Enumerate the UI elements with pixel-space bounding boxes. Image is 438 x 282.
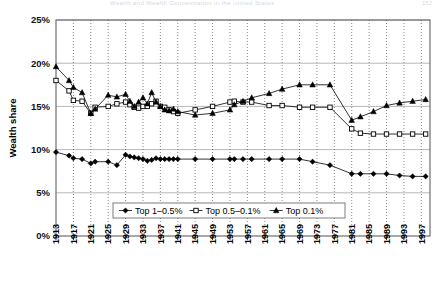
data-point: [79, 157, 84, 162]
data-point: [210, 157, 215, 162]
y-tick-label: 25%: [31, 14, 51, 25]
y-tick-label: 10%: [31, 144, 51, 155]
data-point: [193, 157, 198, 162]
data-point: [280, 103, 284, 107]
data-point: [249, 157, 254, 162]
data-point: [358, 131, 362, 135]
data-point: [371, 171, 376, 176]
x-tick-label: 1937: [156, 224, 166, 244]
y-tick-label: 20%: [31, 58, 51, 69]
data-point: [371, 132, 375, 136]
data-point: [397, 132, 401, 136]
data-point: [297, 105, 301, 109]
data-point: [132, 155, 137, 160]
data-point: [328, 105, 332, 109]
data-point: [349, 171, 354, 176]
data-point: [384, 132, 388, 136]
data-point: [297, 157, 302, 162]
data-point: [141, 104, 145, 108]
legend-label: Top 0.1%: [286, 206, 324, 216]
data-point: [193, 108, 197, 112]
y-tick-label: 5%: [36, 187, 50, 198]
legend-marker-open-square: [194, 208, 198, 212]
data-point: [228, 100, 232, 104]
data-point: [232, 157, 237, 162]
data-point: [140, 95, 146, 100]
y-tick-label: 0%: [36, 230, 50, 241]
legend-label: Top 0.5–0.1%: [206, 206, 261, 216]
x-tick-label: 1941: [173, 224, 183, 244]
x-tick-label: 1953: [225, 224, 235, 244]
data-point: [149, 90, 155, 95]
data-point: [397, 173, 402, 178]
x-tick-label: 1981: [347, 224, 357, 244]
x-tick-label: 1949: [208, 224, 218, 244]
data-point: [80, 99, 84, 103]
data-point: [123, 91, 129, 96]
data-point: [71, 84, 77, 89]
data-point: [350, 127, 354, 131]
legend-label: Top 1–0.5%: [135, 206, 183, 216]
x-axis: 1913191719211925192919331937194119451949…: [51, 224, 426, 244]
x-tick-label: 1913: [51, 224, 61, 244]
series-2: [54, 78, 428, 136]
series-line: [56, 67, 426, 121]
x-tick-label: 1985: [364, 224, 374, 244]
data-point: [280, 157, 285, 162]
legend: Top 1–0.5%Top 0.5–0.1%Top 0.1%: [113, 203, 345, 218]
x-tick-label: 1945: [190, 224, 200, 244]
wealth-share-chart: 0%5%10%15%20%25%Wealth share191319171921…: [0, 0, 438, 282]
data-point: [54, 78, 58, 82]
data-point: [53, 64, 59, 69]
data-point: [327, 163, 332, 168]
x-tick-label: 1965: [277, 224, 287, 244]
data-point: [240, 157, 245, 162]
data-point: [105, 92, 111, 97]
data-point: [71, 156, 76, 161]
data-point: [136, 156, 141, 161]
data-point: [410, 132, 414, 136]
data-point: [66, 153, 71, 158]
x-tick-label: 1929: [121, 224, 131, 244]
x-tick-label: 1977: [330, 224, 340, 244]
series-line: [56, 80, 426, 134]
data-point: [410, 174, 415, 179]
y-axis: 0%5%10%15%20%25%: [31, 14, 51, 241]
chart-page: Wealth and Wealth Concentration in the U…: [0, 0, 438, 282]
data-point: [371, 109, 377, 114]
data-point: [249, 100, 253, 104]
x-tick-label: 1933: [138, 224, 148, 244]
data-point: [106, 159, 111, 164]
data-point: [266, 157, 271, 162]
data-point: [423, 96, 429, 101]
x-tick-label: 1925: [103, 224, 113, 244]
x-tick-label: 1997: [417, 224, 427, 244]
x-tick-label: 1917: [69, 224, 79, 244]
x-tick-label: 1969: [295, 224, 305, 244]
x-tick-label: 1961: [260, 224, 270, 244]
data-point: [106, 104, 110, 108]
x-tick-label: 1993: [399, 224, 409, 244]
data-point: [71, 98, 75, 102]
data-point: [175, 157, 180, 162]
data-point: [267, 103, 271, 107]
y-axis-title: Wealth share: [7, 99, 18, 158]
y-tick-label: 15%: [31, 101, 51, 112]
series-1: [53, 150, 428, 179]
series-3: [53, 64, 428, 123]
data-point: [310, 159, 315, 164]
data-point: [384, 171, 389, 176]
data-point: [310, 105, 314, 109]
data-point: [210, 104, 214, 108]
x-tick-label: 1957: [243, 224, 253, 244]
data-point: [53, 150, 58, 155]
x-tick-label: 1989: [382, 224, 392, 244]
data-point: [115, 102, 119, 106]
x-tick-label: 1921: [86, 224, 96, 244]
data-point: [79, 90, 85, 95]
series-line: [56, 152, 426, 176]
data-point: [358, 171, 363, 176]
data-point: [423, 132, 427, 136]
data-point: [423, 174, 428, 179]
x-tick-label: 1973: [312, 224, 322, 244]
